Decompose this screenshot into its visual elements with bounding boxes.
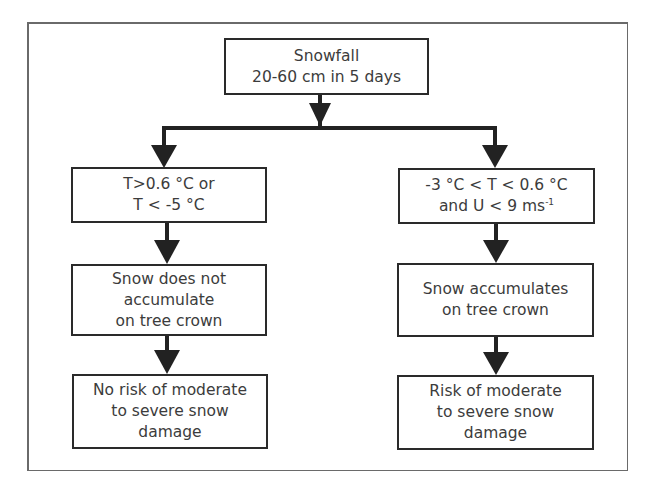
left-condition-box: T>0.6 °C or T < -5 °C bbox=[71, 167, 267, 223]
right-condition-line-2-text: and U < 9 ms bbox=[439, 197, 545, 215]
arrowhead-right-condition-icon bbox=[482, 145, 508, 168]
left-condition-line-2: T < -5 °C bbox=[133, 195, 204, 216]
right-outcome-box: Risk of moderate to severe snow damage bbox=[397, 375, 594, 450]
right-effect-line-1: Snow accumulates bbox=[423, 279, 569, 300]
left-outcome-line-2: to severe snow bbox=[111, 401, 228, 422]
left-effect-line-1: Snow does not bbox=[112, 269, 226, 290]
right-effect-line-2: on tree crown bbox=[442, 300, 549, 321]
left-outcome-box: No risk of moderate to severe snow damag… bbox=[72, 374, 268, 449]
left-outcome-line-1: No risk of moderate bbox=[93, 380, 247, 401]
left-effect-box: Snow does not accumulate on tree crown bbox=[71, 264, 267, 336]
arrowhead-right-outcome-icon bbox=[483, 352, 509, 375]
root-line-1: Snowfall bbox=[294, 46, 359, 67]
root-line-2: 20-60 cm in 5 days bbox=[252, 67, 401, 88]
left-condition-line-1: T>0.6 °C or bbox=[123, 174, 214, 195]
left-effect-line-3: on tree crown bbox=[116, 311, 223, 332]
right-condition-superscript: -1 bbox=[545, 197, 554, 207]
root-box-snowfall: Snowfall 20-60 cm in 5 days bbox=[224, 38, 429, 95]
left-outcome-line-3: damage bbox=[138, 422, 201, 443]
arrowhead-right-effect-icon bbox=[483, 240, 509, 263]
left-effect-line-2: accumulate bbox=[124, 290, 215, 311]
right-effect-box: Snow accumulates on tree crown bbox=[397, 263, 594, 337]
right-outcome-line-2: to severe snow bbox=[437, 402, 554, 423]
arrowhead-left-effect-icon bbox=[154, 240, 180, 264]
right-condition-line-1: -3 °C < T < 0.6 °C bbox=[425, 175, 567, 196]
right-outcome-line-1: Risk of moderate bbox=[429, 381, 561, 402]
arrowhead-left-outcome-icon bbox=[154, 350, 180, 374]
right-condition-box: -3 °C < T < 0.6 °C and U < 9 ms-1 bbox=[398, 168, 595, 224]
right-condition-line-2: and U < 9 ms-1 bbox=[439, 196, 554, 217]
arrowhead-root-icon bbox=[309, 103, 331, 126]
arrowhead-left-condition-icon bbox=[151, 145, 177, 168]
right-outcome-line-3: damage bbox=[464, 423, 527, 444]
